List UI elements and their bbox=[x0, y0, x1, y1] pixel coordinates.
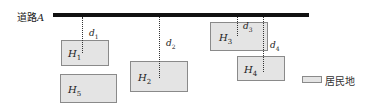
road-label: 道路A bbox=[17, 9, 44, 24]
legend-swatch-settlement bbox=[302, 76, 322, 83]
label-d2: d2 bbox=[166, 38, 176, 50]
road-name: 道路 bbox=[17, 12, 37, 23]
legend-label: 居民地 bbox=[325, 73, 355, 88]
label-d4: d4 bbox=[270, 40, 280, 52]
distance-line-d4 bbox=[263, 17, 264, 72]
label-h2: H2 bbox=[138, 72, 151, 86]
label-h3: H3 bbox=[219, 32, 232, 46]
distance-line-d1 bbox=[82, 17, 83, 53]
settlement-road-diagram: 道路A H1 d1 H5 H2 d2 H3 d3 H4 d4 居民地 bbox=[0, 0, 373, 108]
label-d1: d1 bbox=[89, 28, 99, 40]
distance-line-d3 bbox=[237, 17, 238, 36]
road-a bbox=[53, 13, 309, 17]
label-d3: d3 bbox=[243, 21, 253, 33]
label-h4: H4 bbox=[244, 64, 257, 78]
road-variable: A bbox=[37, 12, 44, 23]
distance-line-d2 bbox=[159, 17, 160, 78]
label-h1: H1 bbox=[68, 48, 81, 62]
label-h5: H5 bbox=[68, 84, 81, 98]
